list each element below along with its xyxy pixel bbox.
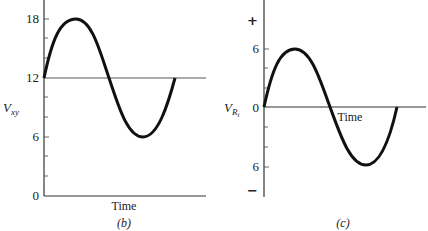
y-tick-0: 0 — [33, 188, 40, 203]
panel-b: 18 12 6 0 Vxy Time (b) — [3, 0, 206, 230]
figure: 18 12 6 0 Vxy Time (b) + 6 0 6 − VRi Tim… — [0, 0, 428, 231]
x-axis-label: Time — [112, 199, 137, 213]
y-axis-label: VRi — [224, 100, 239, 119]
polarity-minus: − — [247, 183, 258, 198]
panel-caption: (c) — [336, 216, 349, 230]
y-ticks — [264, 49, 269, 167]
y-tick-6-pos: 6 — [253, 41, 260, 56]
y-tick-0: 0 — [253, 100, 260, 115]
y-tick-18: 18 — [26, 11, 39, 26]
y-tick-6: 6 — [33, 129, 40, 144]
y-tick-12: 12 — [26, 70, 39, 85]
y-axis-label: Vxy — [3, 100, 19, 117]
polarity-plus: + — [247, 13, 258, 28]
panel-caption: (b) — [117, 216, 131, 230]
panel-c: + 6 0 6 − VRi Time (c) — [224, 0, 426, 230]
y-tick-6-neg: 6 — [253, 159, 260, 174]
x-axis-label: Time — [338, 110, 363, 124]
y-ticks — [44, 19, 49, 176]
